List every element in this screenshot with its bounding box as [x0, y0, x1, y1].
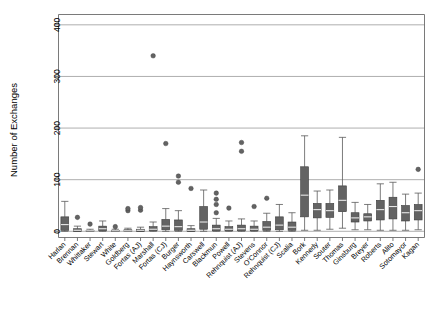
outlier-point: [252, 204, 257, 209]
outlier-point: [163, 141, 168, 146]
y-tick-label: 0: [52, 229, 62, 234]
box-iqr: [61, 217, 69, 230]
outlier-point: [88, 222, 93, 227]
outlier-point: [239, 140, 244, 145]
y-tick-label: 100: [52, 172, 62, 186]
box-iqr: [339, 186, 347, 212]
outlier-point: [214, 202, 219, 207]
outlier-point: [189, 186, 194, 191]
box-iqr: [301, 167, 309, 217]
box-iqr: [275, 217, 283, 230]
y-tick-label: 300: [52, 69, 62, 83]
outlier-point: [138, 205, 143, 210]
box-iqr: [288, 222, 296, 230]
outlier-point: [176, 180, 181, 185]
outlier-point: [214, 191, 219, 196]
box-plot-svg: 0100200300400 HarlanBrennanWhittakerStew…: [0, 0, 441, 309]
outlier-point: [126, 206, 131, 211]
y-axis-title: Number of Exchanges: [8, 83, 19, 177]
chart-figure: 0100200300400 HarlanBrennanWhittakerStew…: [0, 0, 441, 309]
box-iqr: [250, 226, 258, 231]
box-iqr: [174, 220, 182, 230]
y-tick-label: 400: [52, 17, 62, 31]
box-iqr: [162, 219, 170, 229]
box-iqr: [200, 207, 208, 230]
outlier-point: [239, 149, 244, 154]
outlier-point: [176, 174, 181, 179]
outlier-point: [264, 196, 269, 201]
outlier-point: [227, 206, 232, 211]
outlier-point: [214, 210, 219, 215]
box-iqr: [313, 203, 321, 217]
box-iqr: [212, 225, 220, 231]
outlier-point: [151, 53, 156, 58]
outlier-point: [416, 167, 421, 172]
y-tick-label: 200: [52, 121, 62, 135]
box-iqr: [414, 204, 422, 219]
box-iqr: [238, 225, 246, 231]
outlier-point: [75, 215, 80, 220]
outlier-point: [214, 197, 219, 202]
box-iqr: [389, 197, 397, 219]
box-iqr: [263, 221, 271, 230]
outlier-point: [113, 224, 118, 229]
